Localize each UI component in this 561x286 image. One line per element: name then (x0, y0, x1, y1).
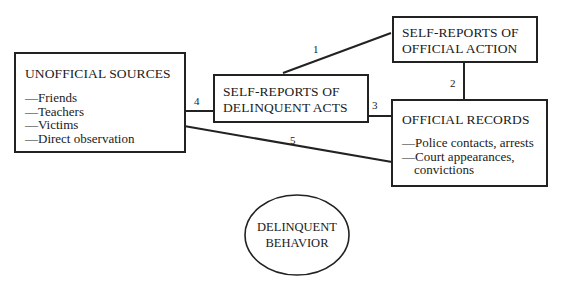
node-self-reports-official-action: SELF-REPORTS OF OFFICIAL ACTION (392, 16, 538, 63)
edge-label-5: 5 (290, 135, 296, 146)
node-title: UNOFFICIAL SOURCES (25, 66, 184, 82)
node-title-line1: SELF-REPORTS OF (402, 25, 536, 41)
node-item: —Victims (25, 118, 184, 132)
node-title-line1: SELF-REPORTS OF (223, 84, 367, 100)
node-item: —Police contacts, arrests (402, 136, 546, 150)
node-unofficial-sources: UNOFFICIAL SOURCES —Friends —Teachers —V… (14, 52, 186, 153)
node-title-line1: DELINQUENT (245, 219, 349, 235)
edge-5 (184, 126, 392, 162)
node-item: —Direct observation (25, 132, 184, 146)
node-official-records: OFFICIAL RECORDS —Police contacts, arres… (391, 99, 548, 187)
edge-label-4: 4 (194, 96, 200, 107)
node-item: —Court appearances, (402, 150, 546, 164)
node-title-line2: DELINQUENT ACTS (223, 100, 367, 116)
node-item: —Friends (25, 91, 184, 105)
edge-1 (283, 33, 391, 73)
edge-label-1: 1 (313, 44, 319, 55)
edge-label-3: 3 (372, 100, 378, 111)
node-title: OFFICIAL RECORDS (402, 112, 546, 128)
node-self-reports-delinquent-acts: SELF-REPORTS OF DELINQUENT ACTS (213, 74, 369, 123)
node-items: —Friends —Teachers —Victims —Direct obse… (25, 91, 184, 145)
node-item: convictions (402, 163, 546, 177)
node-item: —Teachers (25, 105, 184, 119)
node-title-line2: OFFICIAL ACTION (402, 41, 536, 57)
node-title-line2: BEHAVIOR (245, 235, 349, 251)
node-delinquent-behavior: DELINQUENT BEHAVIOR (245, 219, 349, 251)
edge-label-2: 2 (450, 78, 456, 89)
node-items: —Police contacts, arrests —Court appeara… (402, 136, 546, 177)
